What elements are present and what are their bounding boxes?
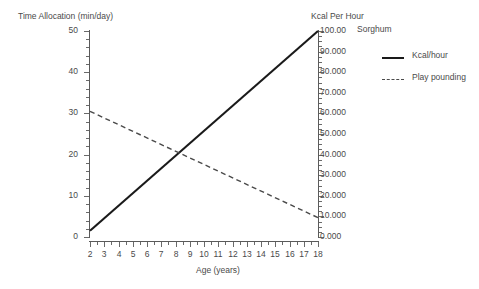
right-minor-tick [319, 222, 322, 223]
right-minor-tick [319, 129, 322, 130]
right-tick-label: 20.000 [320, 190, 346, 200]
left-minor-tick [86, 80, 89, 81]
right-tick-label: 0.000 [320, 231, 341, 241]
x-minor-tick [140, 242, 141, 245]
series-line [90, 31, 318, 231]
right-minor-tick [319, 83, 322, 84]
right-minor-tick [319, 160, 322, 161]
right-minor-tick [319, 103, 322, 104]
left-minor-tick [86, 171, 89, 172]
left-minor-tick [86, 163, 89, 164]
left-minor-tick [86, 146, 89, 147]
right-tick-label: 100.00 [320, 25, 346, 35]
right-minor-tick [319, 149, 322, 150]
left-tick [84, 196, 89, 197]
x-tick [275, 242, 276, 247]
left-minor-tick [86, 229, 89, 230]
left-tick [84, 237, 89, 238]
x-tick [318, 242, 319, 247]
left-minor-tick [86, 89, 89, 90]
left-minor-tick [86, 97, 89, 98]
series-lines [0, 0, 479, 289]
left-minor-tick [86, 138, 89, 139]
right-minor-tick [319, 170, 322, 171]
series-line [90, 111, 318, 217]
x-tick [90, 242, 91, 247]
x-tick-label: 18 [308, 249, 328, 259]
right-tick-label: 30.000 [320, 169, 346, 179]
left-minor-tick [86, 212, 89, 213]
right-minor-tick [319, 206, 322, 207]
left-tick [84, 155, 89, 156]
right-tick-label: 70.000 [320, 87, 346, 97]
right-minor-tick [319, 232, 322, 233]
x-tick [176, 242, 177, 247]
legend-dashed-line-icon [382, 79, 404, 80]
chart-title: Sorghum [357, 24, 392, 34]
right-tick-label: 80.000 [320, 66, 346, 76]
right-minor-tick [319, 62, 322, 63]
right-tick-label: 90.000 [320, 46, 346, 56]
x-tick [190, 242, 191, 247]
right-minor-tick [319, 211, 322, 212]
right-minor-tick [319, 108, 322, 109]
x-minor-tick [126, 242, 127, 245]
x-minor-tick [268, 242, 269, 245]
left-minor-tick [86, 188, 89, 189]
right-minor-tick [319, 41, 322, 42]
x-minor-tick [168, 242, 169, 245]
x-tick [247, 242, 248, 247]
left-minor-tick [86, 221, 89, 222]
x-minor-tick [240, 242, 241, 245]
right-minor-tick [319, 119, 322, 120]
left-minor-tick [86, 130, 89, 131]
left-minor-tick [86, 47, 89, 48]
x-tick [304, 242, 305, 247]
right-minor-tick [319, 144, 322, 145]
right-tick-label: 40.000 [320, 149, 346, 159]
left-tick-label: 30 [52, 107, 78, 117]
left-tick-label: 20 [52, 149, 78, 159]
x-minor-tick [111, 242, 112, 245]
left-minor-tick [86, 122, 89, 123]
left-tick [84, 31, 89, 32]
x-minor-tick [282, 242, 283, 245]
right-tick-label: 10.000 [320, 210, 346, 220]
left-minor-tick [86, 105, 89, 106]
x-minor-tick [225, 242, 226, 245]
left-minor-tick [86, 39, 89, 40]
right-minor-tick [319, 227, 322, 228]
left-tick [84, 113, 89, 114]
right-axis-title: Kcal Per Hour [311, 11, 364, 21]
right-minor-tick [319, 36, 322, 37]
x-minor-tick [197, 242, 198, 245]
right-minor-tick [319, 88, 322, 89]
x-tick [119, 242, 120, 247]
left-minor-tick [86, 204, 89, 205]
x-minor-tick [311, 242, 312, 245]
x-tick [233, 242, 234, 247]
left-axis-title: Time Allocation (min/day) [18, 11, 113, 21]
x-minor-tick [97, 242, 98, 245]
x-tick [261, 242, 262, 247]
right-minor-tick [319, 165, 322, 166]
left-minor-tick [86, 64, 89, 65]
right-minor-tick [319, 46, 322, 47]
right-minor-tick [319, 124, 322, 125]
x-tick [218, 242, 219, 247]
right-minor-tick [319, 67, 322, 68]
legend-label: Play pounding [412, 72, 466, 82]
right-minor-tick [319, 186, 322, 187]
x-minor-tick [154, 242, 155, 245]
legend-label: Kcal/hour [412, 50, 448, 60]
x-minor-tick [297, 242, 298, 245]
right-minor-tick [319, 77, 322, 78]
left-minor-tick [86, 56, 89, 57]
x-tick [133, 242, 134, 247]
x-axis-title: Age (years) [196, 265, 240, 275]
chart-container: Time Allocation (min/day) Kcal Per Hour … [0, 0, 479, 289]
right-minor-tick [319, 98, 322, 99]
x-minor-tick [211, 242, 212, 245]
left-tick-label: 50 [52, 25, 78, 35]
legend-solid-line-icon [382, 57, 404, 59]
